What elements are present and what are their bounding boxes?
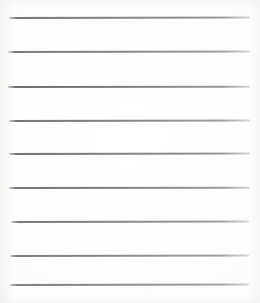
ruled-line — [9, 120, 250, 122]
paper-background — [0, 0, 260, 303]
ruled-line — [8, 86, 250, 88]
ruled-line — [10, 254, 249, 256]
ruled-line — [9, 187, 250, 189]
ruled-line — [9, 16, 250, 18]
ruled-line — [11, 221, 249, 223]
ruled-line — [10, 284, 249, 286]
ruled-line — [9, 153, 250, 155]
lined-paper-image — [0, 0, 260, 303]
ruled-line — [8, 51, 250, 53]
